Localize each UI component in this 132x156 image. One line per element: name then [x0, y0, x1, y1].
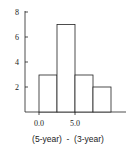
bar — [93, 87, 111, 112]
x-tick-label: 0.0 — [34, 119, 44, 128]
bar — [75, 75, 93, 112]
y-ticks: 8 6 4 2 — [15, 8, 28, 92]
bar — [39, 75, 57, 112]
y-tick-label: 8 — [15, 8, 19, 17]
histogram-chart: 8 6 4 2 0.0 5.0 (5-year) - (3-year) — [0, 0, 132, 156]
bar — [57, 25, 75, 113]
y-tick-label: 6 — [15, 33, 19, 42]
x-axis-label: (5-year) - (3-year) — [32, 134, 104, 144]
x-tick-label: 5.0 — [70, 119, 80, 128]
y-tick-label: 4 — [15, 58, 19, 67]
y-tick-label: 2 — [15, 83, 19, 92]
x-ticks: 0.0 5.0 — [34, 112, 80, 128]
histogram-bars — [39, 25, 111, 113]
